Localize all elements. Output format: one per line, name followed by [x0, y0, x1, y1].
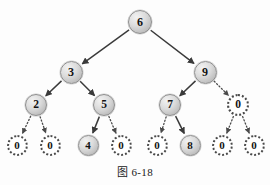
tree-node: 8	[180, 135, 201, 156]
tree-node-nil: 0	[147, 135, 168, 156]
tree-node: 6	[128, 10, 152, 34]
tree-node: 2	[25, 94, 47, 116]
figure-container: 639257000400800 图 6-18	[0, 0, 270, 185]
tree-edge-solid	[82, 30, 129, 64]
tree-node: 7	[159, 94, 181, 116]
tree-edge-dotted	[23, 116, 31, 133]
tree-node: 3	[60, 61, 83, 84]
tree-node: 9	[194, 61, 217, 84]
tree-node-nil: 0	[212, 135, 233, 156]
tree-edge-dotted	[109, 117, 116, 134]
tree-edge-dotted	[214, 81, 228, 95]
tree-edge-solid	[176, 116, 185, 133]
tree-edge-solid	[80, 81, 94, 95]
tree-edge-dotted	[40, 117, 46, 133]
tree-edge-solid	[46, 81, 62, 96]
tree-node-nil: 0	[40, 135, 61, 156]
figure-caption: 图 6-18	[0, 163, 270, 179]
tree-edge-solid	[151, 30, 194, 63]
tree-edge-dotted	[161, 117, 166, 133]
tree-edge-solid	[93, 117, 100, 133]
tree-node-nil: 0	[111, 135, 132, 156]
tree-edge-dotted	[227, 117, 234, 133]
tree-node-nil: 0	[244, 135, 265, 156]
tree-node: 4	[78, 135, 99, 156]
tree-node-nil: 0	[7, 135, 28, 156]
tree-node: 5	[93, 94, 115, 116]
tree-node-nil: 0	[227, 94, 249, 116]
tree-edges	[23, 30, 250, 133]
tree-edge-dotted	[243, 117, 250, 133]
tree-edge-solid	[180, 81, 196, 96]
